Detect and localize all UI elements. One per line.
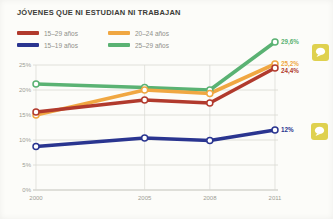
annotation-button-bottom[interactable] [311, 123, 328, 140]
data-point [142, 97, 148, 103]
end-value-label: 12% [281, 126, 294, 133]
speech-bubble-icon [313, 125, 326, 138]
data-point [33, 144, 39, 150]
y-tick-label: 15% [19, 112, 32, 118]
x-tick-label: 2011 [269, 195, 283, 201]
data-point [33, 109, 39, 115]
data-point [33, 81, 39, 87]
data-point [272, 127, 278, 133]
data-point [142, 87, 148, 93]
data-point [207, 91, 213, 97]
data-point [142, 135, 148, 141]
y-tick-label: 20% [19, 87, 32, 93]
infographic: JÓVENES QUE NI ESTUDIAN NI TRABAJAN 15–2… [0, 0, 333, 219]
series-line [36, 42, 275, 90]
annotation-button-top[interactable] [312, 44, 329, 61]
neet-line-chart: 0%5%10%15%20%25%200020052008201129,6%25,… [0, 0, 333, 219]
end-value-label: 24,4% [281, 67, 299, 75]
x-tick-label: 2008 [203, 195, 217, 201]
data-point [207, 138, 213, 144]
series-line [36, 130, 275, 147]
x-tick-label: 2005 [138, 195, 152, 201]
speech-bubble-icon [314, 46, 327, 59]
data-point [207, 100, 213, 106]
x-tick-label: 2000 [29, 195, 43, 201]
y-tick-label: 10% [19, 137, 32, 143]
end-value-label: 29,6% [281, 38, 299, 46]
y-tick-label: 25% [19, 62, 32, 68]
y-tick-label: 5% [22, 162, 31, 168]
data-point [272, 65, 278, 71]
data-point [272, 39, 278, 45]
y-tick-label: 0% [22, 187, 31, 193]
